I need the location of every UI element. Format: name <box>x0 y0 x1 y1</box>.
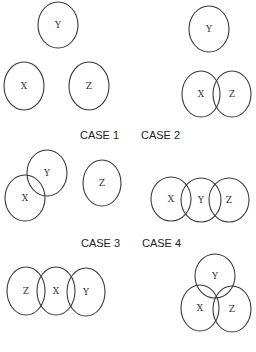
circle-label-z: Z <box>229 89 235 99</box>
circle-label-x: X <box>168 194 175 204</box>
circle-label-z: Z <box>226 195 232 205</box>
case-group-4: XYZCASE 4 <box>142 177 249 249</box>
circle-label-y: Y <box>54 20 62 30</box>
circle-label-z: Z <box>229 304 235 314</box>
circle-label-y: Y <box>43 168 51 178</box>
circle-label-z: Z <box>99 178 105 188</box>
circle-label-x: X <box>53 286 60 296</box>
circle-label-z: Z <box>23 286 29 296</box>
circle-label-y: Y <box>211 271 219 281</box>
circle-label-y: Y <box>82 287 90 297</box>
case-label: CASE 1 <box>80 129 119 141</box>
case-group-6: YXZ <box>181 254 251 332</box>
case-group-5: ZXY <box>7 267 105 316</box>
circle-label-x: X <box>197 303 204 313</box>
circle-label-x: X <box>21 81 28 91</box>
circle-label-y: Y <box>197 195 205 205</box>
cases-layer: YXZCASE 1YXZCASE 2YXZCASE 3XYZCASE 4ZXYY… <box>4 2 251 332</box>
circle-label-y: Y <box>205 24 213 34</box>
circle-label-x: X <box>198 89 205 99</box>
case-label: CASE 2 <box>141 129 180 141</box>
case-label: CASE 3 <box>81 237 120 249</box>
venn-cases-diagram: YXZCASE 1YXZCASE 2YXZCASE 3XYZCASE 4ZXYY… <box>0 0 256 352</box>
case-label: CASE 4 <box>142 237 181 249</box>
case-group-2: YXZCASE 2 <box>141 6 251 141</box>
circle-label-x: X <box>22 193 29 203</box>
case-group-3: YXZCASE 3 <box>5 150 121 249</box>
case-group-1: YXZCASE 1 <box>4 2 119 141</box>
circle-label-z: Z <box>86 81 92 91</box>
